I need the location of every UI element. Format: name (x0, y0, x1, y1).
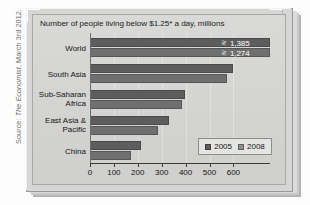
chart-screenshot: Source: The Economist, March 3rd 2012. N… (0, 0, 310, 205)
x-tick-300 (162, 163, 163, 167)
bar-south-asia-2005 (90, 64, 233, 73)
x-tick-600 (233, 163, 234, 167)
category-label-line-1: Sub-Saharan (39, 90, 86, 99)
x-tick-400 (186, 163, 187, 167)
x-tick-200 (138, 163, 139, 167)
legend-item-2008: 2008 (238, 142, 265, 151)
x-tick-label-600: 600 (220, 168, 246, 177)
bar-sub-saharan-africa-2005 (90, 90, 185, 99)
x-axis-line (90, 163, 270, 164)
bar-south-asia-2008 (90, 74, 227, 83)
bar-china-2008 (90, 151, 131, 160)
category-label-sub-saharan-africa: Sub-SaharanAfrica (16, 90, 86, 108)
break-mark-world-2005: ≷ (221, 39, 227, 47)
x-tick-label-400: 400 (173, 168, 199, 177)
legend-label-2008: 2008 (247, 142, 265, 151)
x-tick-0 (90, 163, 91, 167)
category-label-world: World (30, 44, 86, 53)
x-tick-label-200: 200 (125, 168, 151, 177)
legend-swatch-2005 (205, 144, 211, 150)
category-label-south-asia: South Asia (20, 70, 86, 79)
bar-china-2005 (90, 141, 141, 150)
legend-label-2005: 2005 (214, 142, 232, 151)
y-axis-line (90, 33, 91, 163)
category-label-china: China (30, 147, 86, 156)
bar-east-asia-pacific-2005 (90, 116, 169, 125)
legend-swatch-2008 (238, 144, 244, 150)
x-tick-100 (114, 163, 115, 167)
value-label-world-2005: 1,385 (230, 39, 250, 48)
bar-sub-saharan-africa-2008 (90, 100, 182, 109)
break-mark-world-2008: ≷ (221, 49, 227, 57)
chart-legend: 2005 2008 (198, 138, 272, 155)
x-tick-label-100: 100 (101, 168, 127, 177)
legend-item-2005: 2005 (205, 142, 232, 151)
category-label-line-1: East Asia & (45, 116, 86, 125)
bar-east-asia-pacific-2008 (90, 126, 158, 135)
category-label-line-2: Pacific (62, 125, 86, 134)
category-label-east-asia-pacific: East Asia &Pacific (12, 116, 86, 134)
x-tick-label-0: 0 (77, 168, 103, 177)
x-tick-500 (210, 163, 211, 167)
plot-area: World ≷ ≷ 1,385 1,274 South Asia Sub-Sah… (0, 0, 310, 205)
category-label-line-2: Africa (66, 99, 86, 108)
x-tick-label-500: 500 (197, 168, 223, 177)
x-tick-label-300: 300 (149, 168, 175, 177)
value-label-world-2008: 1,274 (230, 49, 250, 58)
